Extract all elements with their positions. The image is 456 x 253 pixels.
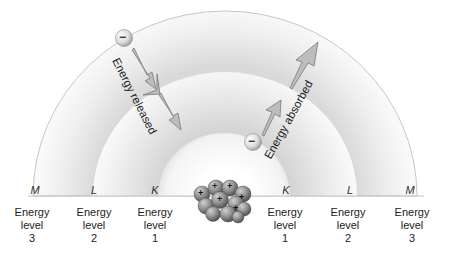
level-num: 3 (2, 232, 62, 245)
shell-letter-l-left: L (91, 184, 97, 196)
level-num: 2 (64, 232, 124, 245)
level-label-1-right: Energy level 1 (255, 206, 315, 245)
level-sub: level (255, 219, 315, 232)
level-word: Energy (125, 206, 185, 219)
level-num: 1 (125, 232, 185, 245)
level-sub: level (125, 219, 185, 232)
shell-letter-m-right: M (405, 184, 414, 196)
proton-sign: + (212, 181, 217, 191)
proton-sign: + (227, 181, 232, 191)
electron-outer-sign: − (119, 30, 126, 44)
level-word: Energy (2, 206, 62, 219)
electron-inner-sign: − (248, 134, 255, 148)
level-word: Energy (255, 206, 315, 219)
level-word: Energy (64, 206, 124, 219)
proton-sign: + (198, 188, 203, 198)
level-label-1-left: Energy level 1 (125, 206, 185, 245)
level-label-2-left: Energy level 2 (64, 206, 124, 245)
proton-sign: + (217, 194, 222, 204)
level-sub: level (318, 219, 378, 232)
shell-letter-l-right: L (347, 184, 353, 196)
level-sub: level (2, 219, 62, 232)
level-sub: level (382, 219, 442, 232)
level-label-3-right: Energy level 3 (382, 206, 442, 245)
level-sub: level (64, 219, 124, 232)
level-label-2-right: Energy level 2 (318, 206, 378, 245)
proton-sign: + (233, 203, 238, 213)
shell-letter-k-right: K (282, 184, 289, 196)
proton-sign: + (239, 192, 244, 202)
level-word: Energy (382, 206, 442, 219)
level-num: 2 (318, 232, 378, 245)
shell-letter-m-left: M (30, 184, 39, 196)
shell-letter-k-left: K (151, 184, 158, 196)
level-num: 1 (255, 232, 315, 245)
level-word: Energy (318, 206, 378, 219)
level-num: 3 (382, 232, 442, 245)
level-label-3-left: Energy level 3 (2, 206, 62, 245)
